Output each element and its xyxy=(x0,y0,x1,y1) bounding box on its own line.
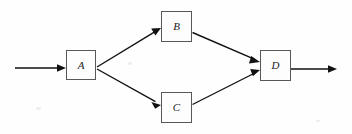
scan-speck xyxy=(316,120,320,122)
edge-a-to-c xyxy=(97,69,161,109)
node-a[interactable]: A xyxy=(66,50,96,80)
edge-input-to-a xyxy=(15,64,66,72)
edge-b-to-d xyxy=(193,33,261,64)
node-b[interactable]: B xyxy=(161,11,192,42)
scan-speck xyxy=(36,107,41,110)
edge-c-to-d xyxy=(193,69,261,105)
scan-speck xyxy=(128,62,132,65)
edge-d-to-output xyxy=(291,65,337,73)
diagram-canvas: A B C D xyxy=(0,0,352,134)
node-d[interactable]: D xyxy=(260,50,291,81)
node-a-label: A xyxy=(78,60,85,71)
node-c[interactable]: C xyxy=(161,92,192,123)
node-b-label: B xyxy=(173,21,180,32)
node-c-label: C xyxy=(173,102,180,113)
node-d-label: D xyxy=(272,60,280,71)
